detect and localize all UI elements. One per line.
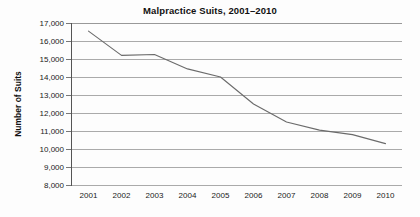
y-axis-tick-label: 11,000 bbox=[2, 127, 64, 136]
gridline bbox=[72, 77, 402, 78]
gridline bbox=[72, 59, 402, 60]
y-axis-tick-label: 12,000 bbox=[2, 109, 64, 118]
x-axis-tick-label: 2010 bbox=[366, 191, 406, 200]
y-axis-tick-label: 8,000 bbox=[2, 181, 64, 190]
gridline bbox=[72, 149, 402, 150]
gridline bbox=[72, 95, 402, 96]
y-axis-tick-label: 14,000 bbox=[2, 73, 64, 82]
line-chart: Malpractice Suits, 2001–2010 Number of S… bbox=[0, 0, 420, 217]
y-axis-tick-label: 13,000 bbox=[2, 91, 64, 100]
y-axis-tick-labels: 17,00016,00015,00014,00013,00012,00011,0… bbox=[0, 0, 64, 217]
y-axis-tick-label: 9,000 bbox=[2, 163, 64, 172]
gridline bbox=[72, 113, 402, 114]
y-axis-tick-label: 10,000 bbox=[2, 145, 64, 154]
gridline bbox=[72, 23, 402, 24]
gridline bbox=[72, 185, 402, 186]
gridline bbox=[72, 167, 402, 168]
y-axis-tick-label: 16,000 bbox=[2, 37, 64, 46]
plot-area bbox=[72, 23, 402, 185]
gridline bbox=[72, 41, 402, 42]
y-axis-tick-label: 17,000 bbox=[2, 19, 64, 28]
y-axis-tick-label: 15,000 bbox=[2, 55, 64, 64]
gridline bbox=[72, 131, 402, 132]
